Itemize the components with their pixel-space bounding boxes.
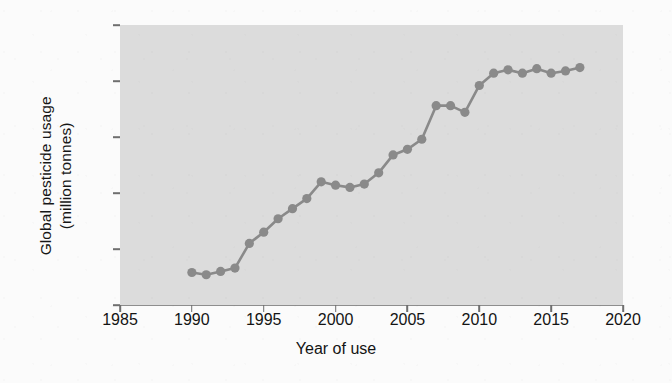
x-tick-mark <box>550 305 552 312</box>
data-point-marker <box>230 263 239 272</box>
x-tick-mark <box>263 305 265 312</box>
x-tick-label: 1995 <box>246 311 282 329</box>
data-point-marker <box>518 69 527 78</box>
data-point-marker <box>345 183 354 192</box>
x-tick-mark <box>191 305 193 312</box>
y-axis-title: Global pesticide usage (million tonnes) <box>36 36 76 316</box>
y-tick-mark <box>113 192 120 194</box>
data-point-marker <box>561 66 570 75</box>
data-point-marker <box>273 214 282 223</box>
x-tick-label: 2015 <box>533 311 569 329</box>
data-point-marker <box>374 168 383 177</box>
x-axis-title: Year of use <box>0 340 672 358</box>
data-point-marker <box>302 194 311 203</box>
data-point-marker <box>446 101 455 110</box>
x-axis-line <box>120 305 623 307</box>
x-tick-label: 2000 <box>318 311 354 329</box>
x-tick-mark <box>119 305 121 312</box>
x-tick-mark <box>478 305 480 312</box>
line-series <box>120 25 623 305</box>
data-point-marker <box>489 69 498 78</box>
data-point-marker <box>288 204 297 213</box>
data-point-marker <box>475 81 484 90</box>
data-point-marker <box>388 150 397 159</box>
plot-area <box>120 25 623 305</box>
data-point-marker <box>432 101 441 110</box>
x-tick-label: 1985 <box>102 311 138 329</box>
y-axis-title-line2: (million tonnes) <box>56 36 76 316</box>
y-tick-mark <box>113 80 120 82</box>
x-tick-mark <box>407 305 409 312</box>
x-tick-mark <box>335 305 337 312</box>
data-point-marker <box>417 135 426 144</box>
x-tick-label: 1990 <box>174 311 210 329</box>
data-point-marker <box>216 267 225 276</box>
data-point-marker <box>360 179 369 188</box>
y-tick-mark <box>113 248 120 250</box>
x-tick-label: 2020 <box>605 311 641 329</box>
x-tick-label: 2010 <box>461 311 497 329</box>
data-point-marker <box>259 228 268 237</box>
data-point-marker <box>403 145 412 154</box>
data-point-marker <box>245 239 254 248</box>
data-point-marker <box>575 63 584 72</box>
chart-figure: Global pesticide usage (million tonnes) … <box>0 0 672 383</box>
y-axis-title-line1: Global pesticide usage <box>36 36 56 316</box>
x-tick-label: 2005 <box>390 311 426 329</box>
data-point-marker <box>187 268 196 277</box>
x-tick-mark <box>622 305 624 312</box>
y-tick-mark <box>113 136 120 138</box>
data-point-marker <box>532 64 541 73</box>
data-point-marker <box>331 181 340 190</box>
data-point-marker <box>460 108 469 117</box>
data-point-marker <box>202 270 211 279</box>
y-tick-mark <box>113 24 120 26</box>
data-point-marker <box>317 177 326 186</box>
data-point-marker <box>547 69 556 78</box>
data-point-marker <box>503 65 512 74</box>
